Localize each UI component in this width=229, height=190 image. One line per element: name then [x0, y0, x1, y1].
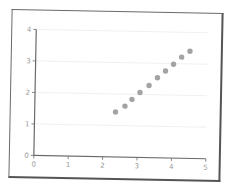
- x-tick-label: 1: [66, 161, 71, 169]
- x-tick-label: 3: [135, 162, 140, 170]
- gridline: [34, 124, 206, 127]
- gridline: [36, 29, 208, 32]
- x-tick-label: 0: [31, 160, 36, 168]
- y-tick-label: 0: [24, 152, 29, 160]
- gridlines: [34, 29, 208, 127]
- data-point: [163, 68, 169, 74]
- x-tick-label: 4: [169, 163, 174, 171]
- chart-frame: 01234 012345: [8, 9, 223, 182]
- gridline: [36, 61, 208, 64]
- data-point: [187, 49, 193, 55]
- x-tick-label: 5: [203, 164, 208, 172]
- gridline: [35, 92, 207, 95]
- scatter-chart: 01234 012345: [9, 10, 224, 183]
- x-axis-line: [34, 155, 206, 158]
- data-point: [171, 61, 177, 67]
- data-point: [155, 75, 161, 81]
- data-point: [129, 97, 135, 103]
- y-tick-label: 2: [25, 89, 30, 97]
- x-tick-label: 2: [100, 162, 105, 170]
- data-point: [179, 54, 185, 60]
- data-points: [113, 47, 193, 116]
- y-tick-label: 3: [26, 57, 31, 65]
- data-point: [113, 109, 119, 115]
- data-point: [146, 83, 152, 89]
- y-tick-label: 4: [27, 26, 32, 34]
- data-point: [122, 103, 128, 109]
- y-tick-label: 1: [25, 120, 30, 128]
